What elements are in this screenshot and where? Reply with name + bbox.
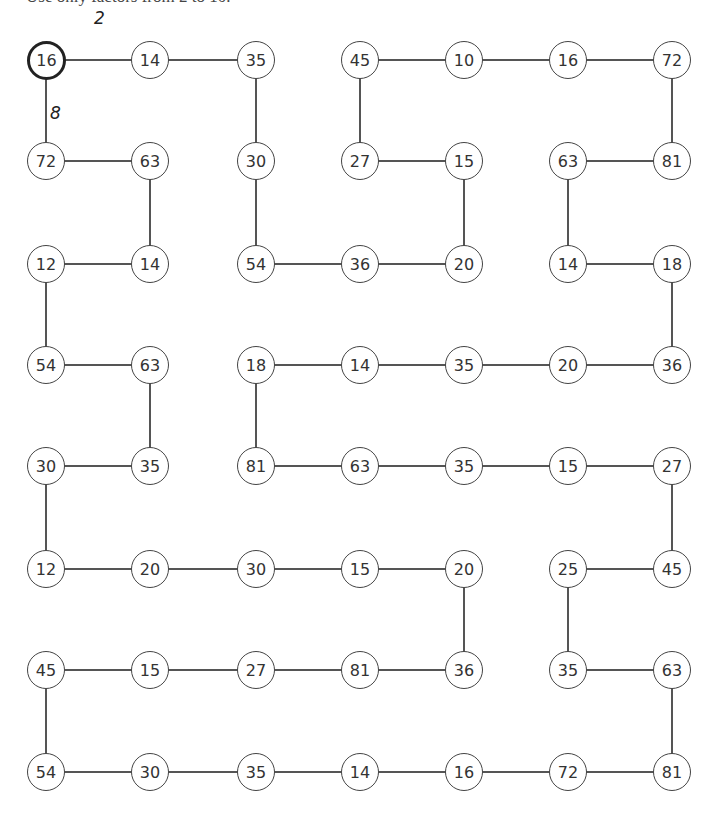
number-node[interactable]: 16 — [445, 753, 483, 791]
number-node[interactable]: 25 — [549, 550, 587, 588]
number-node[interactable]: 16 — [549, 41, 587, 79]
number-node[interactable]: 27 — [341, 142, 379, 180]
number-node[interactable]: 20 — [445, 550, 483, 588]
number-node[interactable]: 15 — [131, 651, 169, 689]
number-node[interactable]: 20 — [549, 346, 587, 384]
number-node[interactable]: 63 — [653, 651, 691, 689]
number-node[interactable]: 35 — [131, 447, 169, 485]
number-node[interactable]: 63 — [131, 142, 169, 180]
number-node[interactable]: 54 — [237, 245, 275, 283]
number-node[interactable]: 63 — [549, 142, 587, 180]
number-node[interactable]: 72 — [653, 41, 691, 79]
number-node[interactable]: 15 — [341, 550, 379, 588]
number-node[interactable]: 30 — [27, 447, 65, 485]
number-node[interactable]: 35 — [549, 651, 587, 689]
number-node[interactable]: 35 — [237, 753, 275, 791]
number-node[interactable]: 45 — [27, 651, 65, 689]
number-node[interactable]: 63 — [131, 346, 169, 384]
number-node[interactable]: 36 — [653, 346, 691, 384]
number-node[interactable]: 12 — [27, 245, 65, 283]
number-node[interactable]: 30 — [131, 753, 169, 791]
number-node[interactable]: 27 — [237, 651, 275, 689]
number-node[interactable]: 54 — [27, 753, 65, 791]
number-node[interactable]: 20 — [131, 550, 169, 588]
number-node[interactable]: 15 — [549, 447, 587, 485]
number-node[interactable]: 36 — [341, 245, 379, 283]
number-node[interactable]: 18 — [653, 245, 691, 283]
number-node[interactable]: 14 — [341, 346, 379, 384]
number-node[interactable]: 18 — [237, 346, 275, 384]
number-node[interactable]: 20 — [445, 245, 483, 283]
number-node[interactable]: 30 — [237, 550, 275, 588]
number-node[interactable]: 45 — [341, 41, 379, 79]
number-node[interactable]: 35 — [445, 346, 483, 384]
number-node[interactable]: 81 — [653, 142, 691, 180]
number-node[interactable]: 30 — [237, 142, 275, 180]
number-node[interactable]: 81 — [653, 753, 691, 791]
number-node[interactable]: 45 — [653, 550, 691, 588]
number-node[interactable]: 10 — [445, 41, 483, 79]
number-node[interactable]: 14 — [131, 245, 169, 283]
number-node[interactable]: 36 — [445, 651, 483, 689]
number-node[interactable]: 72 — [27, 142, 65, 180]
number-node[interactable]: 72 — [549, 753, 587, 791]
number-node[interactable]: 54 — [27, 346, 65, 384]
number-node[interactable]: 35 — [237, 41, 275, 79]
start-node[interactable]: 16 — [27, 41, 66, 80]
number-node[interactable]: 14 — [131, 41, 169, 79]
number-node[interactable]: 81 — [341, 651, 379, 689]
number-node[interactable]: 27 — [653, 447, 691, 485]
number-node[interactable]: 63 — [341, 447, 379, 485]
handwritten-factor-annotation: 8 — [50, 103, 61, 123]
number-node[interactable]: 14 — [341, 753, 379, 791]
number-node[interactable]: 81 — [237, 447, 275, 485]
number-node[interactable]: 15 — [445, 142, 483, 180]
number-node[interactable]: 12 — [27, 550, 65, 588]
number-node[interactable]: 35 — [445, 447, 483, 485]
number-node[interactable]: 14 — [549, 245, 587, 283]
handwritten-factor-annotation: 2 — [94, 8, 105, 28]
factor-path-puzzle: 1614354510167272633027156381121454362014… — [0, 0, 722, 814]
